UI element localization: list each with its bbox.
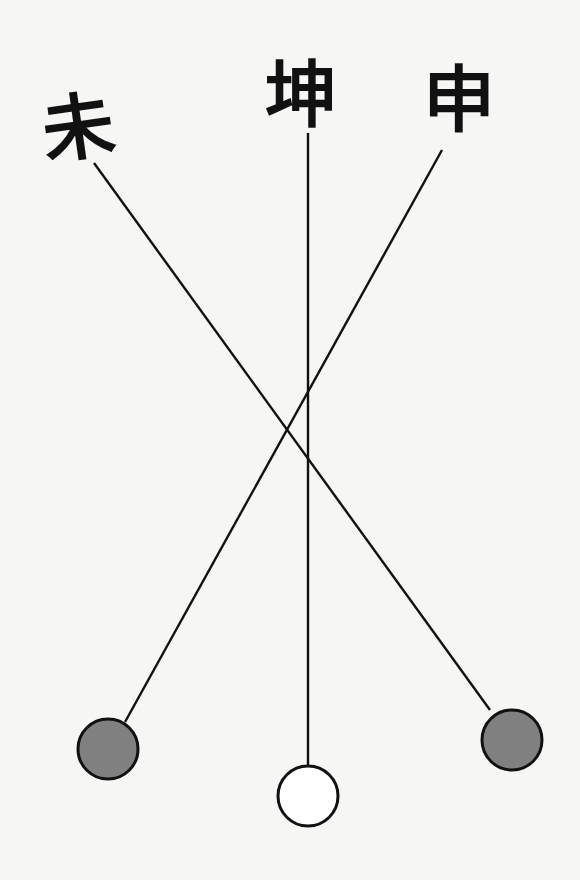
filled-circle-right [482,710,542,770]
filled-circle-left [78,719,138,779]
connector-line-shen [125,150,442,722]
hollow-circle-middle [278,766,338,826]
label-kun: 坤 [265,59,337,131]
label-wei: 未 [37,87,118,168]
connector-line-wei [94,163,490,710]
label-shen: 申 [423,64,495,136]
